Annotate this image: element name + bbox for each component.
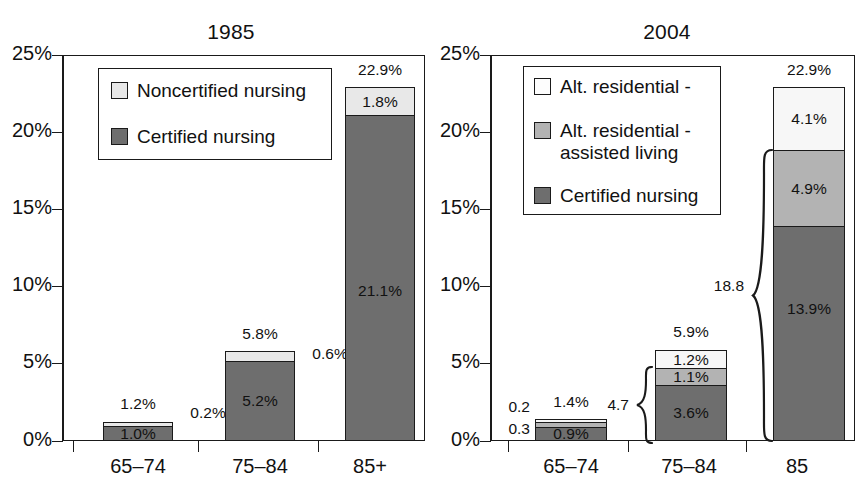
legend-item-alt-residential[interactable]: Alt. residential -: [534, 76, 691, 98]
legend-swatch-icon-noncertified: [111, 82, 128, 99]
ytick-label-10: 10%: [0, 273, 52, 296]
bar-segment-noncertified: 1.8%: [345, 87, 415, 116]
legend-item-assisted-living[interactable]: Alt. residential - assisted living: [534, 120, 691, 164]
xtick-mark-2: [318, 441, 319, 452]
brace-label-85: 18.8: [684, 277, 744, 295]
bar-segment-label-alt-residential: 1.2%: [673, 352, 708, 368]
ytick-label-15: 15%: [0, 196, 52, 219]
ytick-label-15: 15%: [428, 196, 480, 219]
bar-segment-alt-residential: 4.1%: [773, 87, 845, 151]
bar-alt-residential-value-65-74: 0.2: [484, 398, 530, 416]
bar-segment-label-certified: 5.2%: [242, 393, 277, 409]
chart-title-1985: 1985: [166, 20, 296, 44]
ytick-label-25: 25%: [428, 42, 480, 65]
bar-1985-65-74: 1.0%: [103, 422, 173, 441]
ytick-mark-25: [52, 55, 63, 56]
ytick-mark-25: [480, 55, 491, 56]
bar-segment-assisted-living: 1.1%: [655, 368, 727, 386]
bar-segment-label-certified: 0.9%: [553, 426, 588, 442]
legend-item-noncertified-nursing[interactable]: Noncertified nursing: [111, 80, 306, 102]
legend-item-certified-nursing[interactable]: Certified nursing: [111, 126, 275, 148]
bar-segment-certified: 0.9%: [535, 427, 607, 441]
chart-panel-2004: 2004 25% 20% 15% 10% 5% 0% 65–74 75–84 8…: [432, 0, 864, 493]
chart-title-2004: 2004: [602, 20, 732, 44]
xtick-label-75-84: 75–84: [200, 455, 320, 478]
legend-label-certified: Certified nursing: [137, 126, 275, 148]
bar-segment-certified: 3.6%: [655, 385, 727, 441]
bar-segment-certified: 5.2%: [225, 361, 295, 441]
bar-segment-certified: 1.0%: [103, 426, 173, 441]
legend-swatch-icon-certified: [111, 128, 128, 145]
chart-panel-1985: 1985 25% 20% 15% 10% 5% 0% 65–74 75–84 8…: [0, 0, 432, 493]
bar-2004-75-84: 1.2% 1.1% 3.6%: [655, 350, 727, 441]
bar-2004-85: 4.1% 4.9% 13.9%: [773, 87, 845, 441]
bar-total-label-85: 22.9%: [770, 61, 848, 79]
xtick-mark-0: [73, 441, 74, 452]
ytick-mark-15: [480, 209, 491, 210]
ytick-label-5: 5%: [0, 350, 52, 373]
ytick-label-20: 20%: [428, 119, 480, 142]
xtick-mark-1: [198, 441, 199, 452]
bar-1985-85plus: 1.8% 21.1%: [345, 87, 415, 441]
legend-label-noncertified: Noncertified nursing: [137, 80, 306, 102]
bar-segment-certified: 13.9%: [773, 226, 845, 441]
bar-segment-label-alt-residential: 4.1%: [791, 111, 826, 127]
bar-segment-label-assisted-living: 4.9%: [791, 181, 826, 197]
legend-label-alt-residential: Alt. residential -: [560, 76, 691, 98]
xtick-mark-2: [746, 441, 747, 452]
xtick-mark-0: [508, 441, 509, 452]
ytick-label-25: 25%: [0, 42, 52, 65]
bar-total-label-85plus: 22.9%: [342, 61, 418, 79]
ytick-mark-5: [480, 363, 491, 364]
legend-swatch-icon-assisted-living: [534, 122, 551, 139]
ytick-label-0: 0%: [428, 428, 480, 451]
ytick-mark-0: [480, 441, 491, 442]
ytick-mark-10: [480, 286, 491, 287]
bar-assisted-living-value-65-74: 0.3: [484, 420, 530, 438]
legend-swatch-icon-certified: [534, 187, 551, 204]
legend-1985: Noncertified nursing Certified nursing: [98, 68, 332, 160]
bar-segment-label-assisted-living: 1.1%: [673, 369, 708, 385]
brace-label-75-84: 4.7: [577, 396, 629, 414]
legend-label-assisted-living: Alt. residential - assisted living: [560, 120, 691, 164]
bar-segment-label-certified: 3.6%: [673, 405, 708, 421]
xtick-label-65-74: 65–74: [78, 455, 198, 478]
xtick-label-85: 85: [747, 455, 847, 478]
ytick-label-5: 5%: [428, 350, 480, 373]
ytick-mark-5: [52, 363, 63, 364]
xtick-mark-1: [628, 441, 629, 452]
ytick-label-0: 0%: [0, 428, 52, 451]
xtick-label-65-74: 65–74: [512, 455, 630, 478]
ytick-mark-20: [480, 132, 491, 133]
bar-segment-label-certified: 21.1%: [358, 283, 402, 299]
ytick-label-20: 20%: [0, 119, 52, 142]
bar-segment-certified: 21.1%: [345, 115, 415, 441]
bar-total-label-65-74: 1.2%: [103, 395, 173, 413]
legend-swatch-icon-alt-residential: [534, 78, 551, 95]
bar-1985-75-84: 5.2%: [225, 351, 295, 441]
bar-segment-assisted-living: 4.9%: [773, 150, 845, 227]
legend-2004: Alt. residential - Alt. residential - as…: [523, 66, 721, 215]
bar-total-label-75-84: 5.9%: [655, 323, 727, 341]
xtick-label-75-84: 75–84: [630, 455, 748, 478]
legend-label-certified: Certified nursing: [560, 185, 698, 207]
brace-75-84: [634, 366, 654, 444]
brace-85: [750, 148, 774, 443]
ytick-mark-20: [52, 132, 63, 133]
bar-2004-65-74: 0.9%: [535, 419, 607, 441]
bar-segment-label-certified: 13.9%: [787, 301, 831, 317]
bar-segment-label-noncertified: 1.8%: [362, 94, 397, 110]
bar-segment-label-certified: 1.0%: [120, 426, 155, 442]
ytick-mark-15: [52, 209, 63, 210]
legend-item-certified-nursing[interactable]: Certified nursing: [534, 185, 698, 207]
ytick-mark-10: [52, 286, 63, 287]
bar-segment-alt-residential: 1.2%: [655, 350, 727, 369]
ytick-mark-0: [52, 441, 63, 442]
bar-total-label-75-84: 5.8%: [225, 325, 295, 343]
ytick-label-10: 10%: [428, 273, 480, 296]
xtick-label-85plus: 85+: [320, 455, 420, 478]
